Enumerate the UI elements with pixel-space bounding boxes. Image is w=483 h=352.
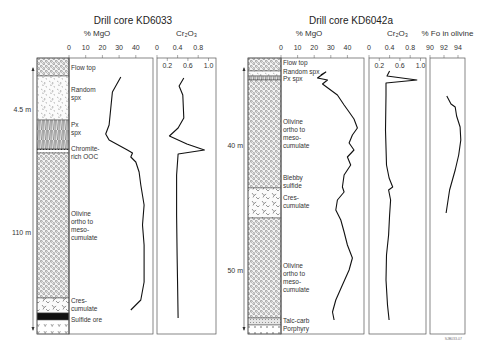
tick-label: 0 [155,44,159,51]
depth-label: 40 m [227,142,243,149]
figure-code: SJB033-07 [445,337,462,341]
depth-label: 50 m [227,267,243,274]
drill-core-kd6042a: Flow topRandom spxPx spxOlivineortho tom… [227,29,474,334]
lithology-label: ortho to [71,218,93,225]
axis-label: Cr₂O₃ [176,29,197,38]
tick-label: 92 [440,44,448,51]
tick-label: 0 [367,44,371,51]
series-line [106,77,144,310]
tick-label: 90 [426,44,434,51]
lithology-column [248,58,281,334]
series-line [318,72,358,320]
tick-label: 0.6 [183,62,193,69]
lithology-label: cumulate [71,234,98,241]
tick-label: 0.2 [374,62,384,69]
tick-label: 94 [454,44,462,51]
tick-label: 10 [82,44,90,51]
lithology-label: Olivine [283,118,303,125]
lithology-label: Flow top [71,64,96,72]
arrow-up-icon [32,67,35,71]
lithology-unit [37,120,69,149]
lithology-label: Porphyry [283,325,310,333]
axis-label: % Fo in olivine [421,29,474,38]
depth-label: 110 m [12,229,31,236]
series-line [446,96,461,213]
lithology-label: Cres- [71,297,87,304]
drill-core-kd6033: Flow topRandomspxPxspxChromite-rich OOCO… [12,29,216,334]
tick-label: 20 [310,44,318,51]
lithology-column [37,58,69,334]
chart-title: Drill core KD6042a [309,15,393,26]
lithology-label: Chromite- [71,145,100,152]
lithology-label: Blebby [283,174,304,182]
axis-label: Cr₂O₃ [387,29,408,38]
tick-label: 0.4 [385,44,395,51]
axis-label: % MgO [84,29,111,38]
lithology-unit [248,80,281,188]
lithology-label: ortho to [283,270,305,277]
lithology-label: sulfide [283,182,302,189]
lithology-unit [248,58,281,71]
lithology-label: cumulate [283,202,310,209]
tick-label: 0 [279,44,283,51]
lithology-label: meso- [283,278,301,285]
lithology-unit [37,76,69,120]
lithology-label: spx [71,129,82,137]
lithology-label: cumulate [71,305,98,312]
lithology-unit [37,58,69,76]
chart-titles: Drill core KD6033Drill core KD6042a [94,15,394,26]
lithology-label: meso- [283,134,301,141]
series-line [169,78,204,318]
lithology-label: cumulate [283,142,310,149]
chart-title: Drill core KD6033 [94,15,173,26]
lithology-unit [37,298,69,313]
lithology-label: Px spx [283,75,303,83]
lithology-label: Olivine [283,262,303,269]
lithology-unit [248,76,281,80]
tick-label: 40 [344,44,352,51]
tick-label: 0 [67,44,71,51]
lithology-label: Talc-carb [283,317,310,324]
lithology-unit [37,149,69,153]
series-panel: Cr₂O₃00.40.80.20.61.0 [367,29,426,334]
depth-label: 4.5 m [13,106,31,113]
arrow-up-icon [243,67,246,71]
lithology-label: rich OOC [71,153,98,160]
lithology-label: Sulfide ore [71,316,102,323]
lithology-unit [37,153,69,298]
tick-label: 1.0 [204,62,214,69]
lithology-label: ortho to [283,126,305,133]
lithology-unit [248,325,281,334]
tick-label: 0.6 [395,62,405,69]
lithology-label: spx [71,94,82,102]
series-panel: % MgO010203040 [67,29,153,334]
series-line [386,71,417,320]
lithology-unit [248,71,281,76]
axis-label: % MgO [296,29,323,38]
arrow-down-icon [32,327,35,331]
tick-label: 0.8 [193,44,203,51]
tick-label: 0.2 [162,62,172,69]
lithology-label: meso- [71,226,89,233]
tick-label: 10 [294,44,302,51]
lithology-unit [248,188,281,218]
lithology-unit [37,313,69,320]
series-panel: Cr₂O₃00.40.80.20.61.0 [155,29,216,334]
lithology-label: Px [71,121,79,128]
lithology-unit [248,318,281,325]
drill-core-figure: Drill core KD6033Drill core KD6042a Flow… [0,0,483,352]
tick-label: 0.4 [173,44,183,51]
lithology-unit [248,218,281,318]
lithology-label: Cres- [283,194,299,201]
tick-label: 20 [99,44,107,51]
tick-label: 40 [132,44,140,51]
lithology-label: Olivine [71,210,91,217]
tick-label: 30 [327,44,335,51]
lithology-unit [37,320,69,334]
tick-label: 0.8 [405,44,415,51]
arrow-down-icon [243,327,246,331]
lithology-label: Random [71,86,96,93]
tick-label: 30 [115,44,123,51]
series-panel: % Fo in olivine909294 [421,29,474,334]
lithology-label: cumulate [283,286,310,293]
